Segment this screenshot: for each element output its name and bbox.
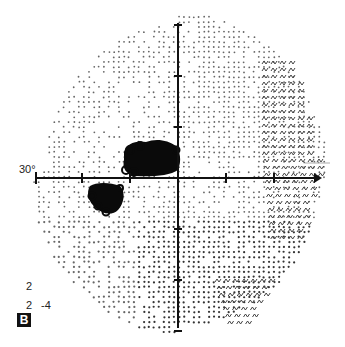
degree-label: 30° bbox=[19, 163, 36, 175]
visual-field-plot bbox=[0, 0, 345, 347]
central-scotoma bbox=[124, 140, 181, 176]
panel-label-badge: B bbox=[17, 313, 31, 327]
legend-value-3: -4 bbox=[41, 299, 51, 311]
defect-symbols bbox=[215, 61, 324, 324]
legend-value-1: 2 bbox=[26, 280, 32, 292]
legend-value-2: 2 bbox=[26, 299, 32, 311]
dot-field bbox=[33, 16, 325, 334]
